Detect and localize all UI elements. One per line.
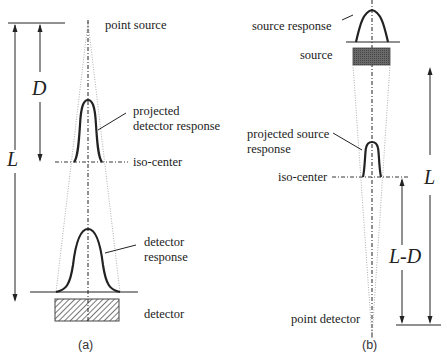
panel-b: L-D L source response source projected s… [247, 0, 441, 352]
detector-label: detector [144, 307, 185, 321]
L-dimension-arrow-b [428, 67, 433, 324]
source-response-leader-line [342, 15, 353, 20]
point-detector-label: point detector [291, 312, 361, 326]
beam-edge-right [88, 22, 120, 292]
detector-response-label-2: response [144, 250, 188, 264]
source-block [353, 48, 390, 65]
projected-leader-line [98, 113, 126, 130]
D-symbol: D [31, 77, 47, 99]
panel-b-caption: (b) [362, 338, 377, 352]
L-symbol: L [6, 148, 18, 170]
detector-block [55, 299, 119, 321]
panel-a-caption: (a) [78, 338, 93, 352]
source-label: source [300, 48, 333, 62]
L-minus-D-symbol: L-D [388, 245, 422, 267]
source-response-label: source response [252, 19, 332, 33]
beam-edge-left [56, 22, 88, 292]
detector-response-leader-line [105, 245, 136, 253]
projected-source-response-label-1: projected source [247, 127, 330, 141]
projected-detector-response-label-1: projected [133, 104, 180, 118]
panel-a: L D point source projected detector r [6, 18, 221, 352]
beam-edge-left-b [353, 65, 372, 338]
diagram: L D point source projected detector r [0, 0, 447, 358]
projected-detector-response-label-2: detector response [133, 119, 221, 133]
beam-edge-right-b [372, 65, 390, 338]
L-symbol-b: L [423, 166, 435, 188]
projected-source-response-label-2: response [247, 142, 291, 156]
iso-center-label-b: iso-center [278, 170, 328, 184]
detector-response-label-1: detector [144, 235, 185, 249]
point-source-label: point source [105, 18, 167, 32]
iso-center-label: iso-center [133, 155, 183, 169]
